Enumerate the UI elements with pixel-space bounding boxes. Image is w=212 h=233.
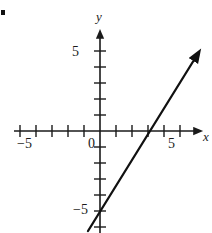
coordinate-plot [0, 0, 212, 233]
origin-label: 0 [88, 137, 95, 151]
y-tick-label-pos5: 5 [72, 45, 79, 59]
x-tick-label-neg5: −5 [17, 137, 32, 151]
graph-figure: y x −5 5 0 −5 5 [0, 0, 212, 233]
x-axis [14, 125, 194, 137]
x-axis-label: x [203, 130, 209, 143]
plotted-line [88, 60, 194, 231]
y-tick-label-neg5: −5 [73, 203, 88, 217]
x-tick-label-pos5: 5 [168, 137, 175, 151]
y-axis-label: y [96, 10, 102, 23]
